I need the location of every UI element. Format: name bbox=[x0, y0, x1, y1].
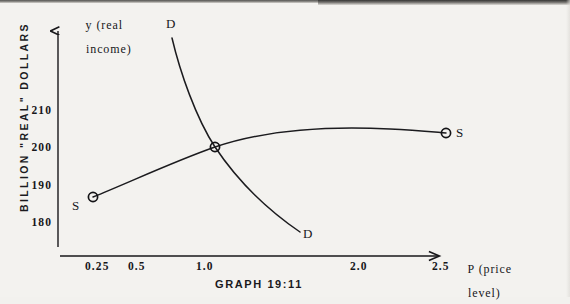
demand-curve-D bbox=[172, 38, 300, 232]
y-tick-label-190: 190 bbox=[22, 179, 52, 191]
demand-curve-label-top: D bbox=[166, 17, 175, 31]
y-axis-title: y (real income) bbox=[70, 6, 132, 81]
supply-curve-label-right: S bbox=[456, 126, 463, 140]
x-axis-title-line2: level) bbox=[452, 287, 512, 300]
y-axis-title-line2: income) bbox=[70, 43, 132, 56]
x-tick-label-2-5: 2.5 bbox=[432, 260, 450, 272]
x-axis-title: P (price level) bbox=[452, 250, 512, 304]
x-tick-label-2-0: 2.0 bbox=[350, 260, 368, 272]
y-tick-label-180: 180 bbox=[22, 216, 52, 228]
x-axis-title-line1: P (price bbox=[468, 262, 512, 276]
x-tick-label-1-0: 1.0 bbox=[196, 260, 214, 272]
y-tick-label-210: 210 bbox=[22, 104, 52, 116]
x-tick-label-0-5: 0.5 bbox=[128, 260, 146, 272]
supply-curve-S bbox=[93, 128, 446, 197]
supply-curve-label-left: S bbox=[72, 199, 79, 213]
y-axis-title-line1: y (real bbox=[86, 18, 123, 32]
demand-curve-label-bottom: D bbox=[303, 227, 312, 241]
x-tick-label-0-25: 0.25 bbox=[85, 260, 110, 272]
figure-caption: GRAPH 19:11 bbox=[215, 278, 303, 290]
y-tick-label-200: 200 bbox=[22, 141, 52, 153]
